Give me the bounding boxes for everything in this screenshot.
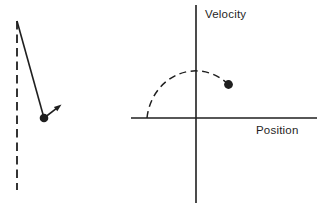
pendulum-sketch: [17, 21, 62, 190]
trajectory-dashed-arc: [147, 71, 229, 118]
phase-plot: Velocity Position: [131, 5, 317, 203]
position-axis-label: Position: [256, 124, 299, 136]
velocity-vector-shaft: [44, 108, 57, 118]
state-point-dot: [224, 80, 233, 89]
velocity-axis-label: Velocity: [205, 8, 246, 20]
pendulum-phase-diagram-svg: Velocity Position: [0, 0, 325, 211]
pendulum-rod: [17, 21, 44, 118]
figure-canvas: Velocity Position: [0, 0, 325, 211]
